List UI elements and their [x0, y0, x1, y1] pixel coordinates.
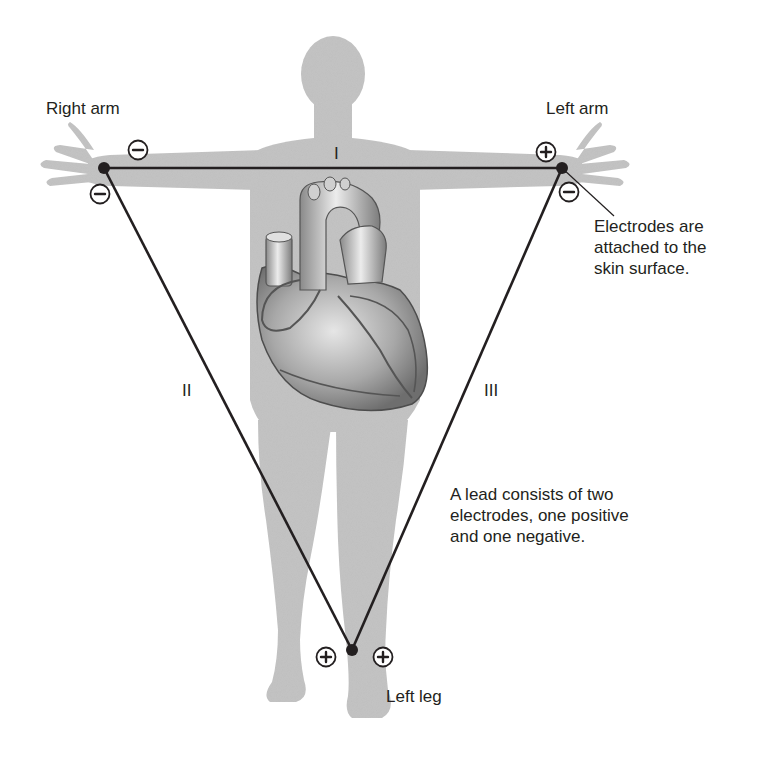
einthoven-triangle-diagram: Right arm Left arm Left leg I II III Ele…	[0, 0, 772, 770]
lead-note-line: and one negative.	[450, 526, 629, 547]
left-arm-label: Left arm	[546, 98, 608, 119]
right-arm-label: Right arm	[46, 98, 120, 119]
electrodes-note-line: Electrodes are	[594, 216, 706, 237]
electrodes-note: Electrodes are attached to the skin surf…	[594, 216, 706, 279]
lead-definition-note: A lead consists of two electrodes, one p…	[450, 484, 629, 547]
lead-note-line: A lead consists of two	[450, 484, 629, 505]
lead-note-line: electrodes, one positive	[450, 505, 629, 526]
left-leg-label: Left leg	[386, 686, 442, 707]
lead-II-label: II	[182, 381, 191, 401]
lead-III-label: III	[484, 381, 498, 401]
electrodes-note-line: attached to the	[594, 237, 706, 258]
electrodes-note-line: skin surface.	[594, 258, 706, 279]
lead-I-label: I	[334, 144, 339, 164]
